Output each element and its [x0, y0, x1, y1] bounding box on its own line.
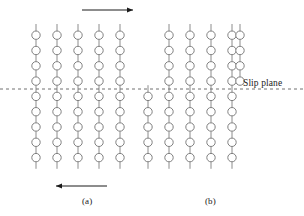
- atom-circle: [207, 108, 215, 116]
- atom-circle: [53, 123, 61, 131]
- atom-circle: [116, 153, 124, 161]
- atom-circle: [116, 31, 124, 39]
- atom-circle: [74, 123, 82, 131]
- atom-circle: [144, 123, 152, 131]
- atom-circle: [165, 138, 173, 146]
- atom-circle: [95, 138, 103, 146]
- atom-circle: [207, 153, 215, 161]
- atom-circle: [236, 31, 244, 39]
- atom-circle: [116, 138, 124, 146]
- atom-circle: [144, 92, 152, 100]
- atom-circle: [116, 123, 124, 131]
- atom-circle: [74, 31, 82, 39]
- atom-circle: [165, 46, 173, 54]
- atom-circle: [95, 123, 103, 131]
- atom-circle: [74, 92, 82, 100]
- atom-circle: [228, 77, 236, 85]
- atom-circle: [95, 153, 103, 161]
- panel-a-lattice: [32, 24, 124, 169]
- atom-circle: [95, 31, 103, 39]
- atom-circle: [228, 62, 236, 70]
- atom-circle: [95, 46, 103, 54]
- atom-circle: [207, 62, 215, 70]
- atom-circle: [53, 62, 61, 70]
- panel-a-caption: (a): [82, 196, 92, 206]
- atom-circle: [74, 153, 82, 161]
- atom-circle: [228, 108, 236, 116]
- atom-circle: [116, 92, 124, 100]
- atom-circle: [186, 108, 194, 116]
- atom-circle: [207, 92, 215, 100]
- atom-circle: [53, 108, 61, 116]
- atom-circle: [32, 31, 40, 39]
- atom-circle: [228, 138, 236, 146]
- atom-circle: [32, 77, 40, 85]
- shear-arrow-bottom: [56, 183, 107, 188]
- atom-circle: [95, 62, 103, 70]
- atom-circle: [207, 46, 215, 54]
- atom-circle: [228, 46, 236, 54]
- shear-arrow-top: [82, 7, 133, 12]
- slip-plane-label: Slip plane: [243, 78, 282, 88]
- atom-circle: [144, 153, 152, 161]
- atom-circle: [186, 46, 194, 54]
- atom-circle: [236, 62, 244, 70]
- atom-circle: [165, 31, 173, 39]
- atom-circle: [144, 108, 152, 116]
- panel-b-caption: (b): [205, 196, 216, 206]
- atom-circle: [228, 153, 236, 161]
- atom-circle: [186, 62, 194, 70]
- atom-circle: [165, 92, 173, 100]
- atom-circle: [53, 31, 61, 39]
- atom-circle: [228, 92, 236, 100]
- atom-circle: [32, 153, 40, 161]
- atom-circle: [207, 77, 215, 85]
- atom-circle: [186, 92, 194, 100]
- atom-circle: [116, 108, 124, 116]
- atom-circle: [165, 77, 173, 85]
- atom-circle: [116, 62, 124, 70]
- lattice-diagram-canvas: [0, 0, 304, 216]
- atom-circle: [95, 108, 103, 116]
- atom-circle: [74, 108, 82, 116]
- atom-circle: [236, 46, 244, 54]
- atom-circle: [116, 77, 124, 85]
- atom-circle: [207, 31, 215, 39]
- atom-circle: [32, 138, 40, 146]
- atom-circle: [53, 46, 61, 54]
- atom-circle: [53, 92, 61, 100]
- atom-circle: [74, 46, 82, 54]
- atom-circle: [228, 123, 236, 131]
- atom-circle: [144, 138, 152, 146]
- atom-circle: [32, 62, 40, 70]
- atom-circle: [74, 138, 82, 146]
- atom-circle: [165, 108, 173, 116]
- atom-circle: [95, 92, 103, 100]
- atom-circle: [186, 123, 194, 131]
- atom-circle: [165, 153, 173, 161]
- atom-circle: [53, 77, 61, 85]
- atom-circle: [32, 123, 40, 131]
- atom-circle: [116, 46, 124, 54]
- atom-circle: [186, 31, 194, 39]
- atom-circle: [186, 153, 194, 161]
- panel-b-lattice: [144, 24, 244, 169]
- atom-circle: [53, 138, 61, 146]
- atom-circle: [186, 77, 194, 85]
- slip-deformation-figure: (a) (b) Slip plane: [0, 0, 304, 216]
- atom-circle: [32, 92, 40, 100]
- atom-circle: [228, 31, 236, 39]
- atom-circle: [32, 46, 40, 54]
- atom-circle: [207, 138, 215, 146]
- arrow-head: [127, 7, 133, 12]
- atom-circle: [207, 123, 215, 131]
- atom-circle: [165, 62, 173, 70]
- arrow-head: [56, 183, 62, 188]
- atom-circle: [186, 138, 194, 146]
- atom-circle: [53, 153, 61, 161]
- atom-circle: [95, 77, 103, 85]
- atom-circle: [74, 77, 82, 85]
- atom-circle: [165, 123, 173, 131]
- atom-circle: [32, 108, 40, 116]
- atom-circle: [74, 62, 82, 70]
